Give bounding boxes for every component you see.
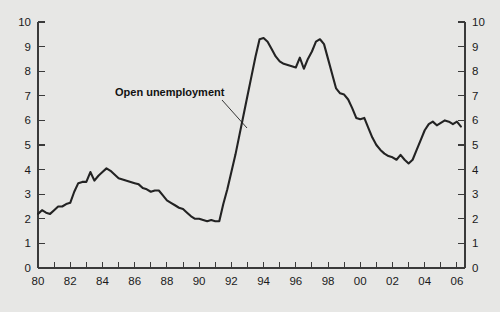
x-tick-label: 94: [257, 275, 270, 287]
y-tick-label-right: 0: [472, 262, 478, 274]
x-tick-label: 80: [32, 275, 45, 287]
y-tick-label-left: 7: [25, 90, 31, 102]
y-tick-label-right: 8: [472, 65, 478, 77]
y-tick-label-right: 3: [472, 188, 478, 200]
x-tick-label: 96: [289, 275, 302, 287]
x-tick-label: 98: [322, 275, 335, 287]
unemployment-line-chart: 0011223344556677889910108082848688909294…: [0, 0, 500, 312]
y-tick-label-right: 9: [472, 41, 478, 53]
x-tick-label: 84: [96, 275, 109, 287]
y-tick-label-left: 9: [25, 41, 31, 53]
x-tick-label: 90: [193, 275, 206, 287]
y-tick-label-right: 4: [472, 164, 479, 176]
y-tick-label-left: 6: [25, 114, 31, 126]
y-tick-label-right: 7: [472, 90, 478, 102]
y-tick-label-right: 5: [472, 139, 478, 151]
x-tick-label: 00: [354, 275, 367, 287]
x-tick-label: 88: [161, 275, 174, 287]
y-tick-label-right: 2: [472, 213, 478, 225]
y-tick-label-left: 3: [25, 188, 31, 200]
y-tick-label-left: 2: [25, 213, 31, 225]
x-tick-label: 06: [451, 275, 464, 287]
y-tick-label-left: 1: [25, 237, 31, 249]
x-tick-label: 02: [386, 275, 399, 287]
x-tick-label: 86: [128, 275, 141, 287]
y-tick-label-left: 4: [25, 164, 32, 176]
series-annotation-label: Open unemployment: [115, 86, 225, 98]
y-tick-label-left: 10: [18, 16, 31, 28]
y-tick-label-right: 6: [472, 114, 478, 126]
y-tick-label-right: 1: [472, 237, 478, 249]
x-tick-label: 04: [418, 275, 431, 287]
chart-container: 0011223344556677889910108082848688909294…: [0, 0, 500, 312]
x-tick-label: 82: [64, 275, 77, 287]
y-tick-label-right: 10: [472, 16, 485, 28]
x-tick-label: 92: [225, 275, 238, 287]
y-tick-label-left: 0: [25, 262, 31, 274]
y-tick-label-left: 8: [25, 65, 31, 77]
y-tick-label-left: 5: [25, 139, 31, 151]
